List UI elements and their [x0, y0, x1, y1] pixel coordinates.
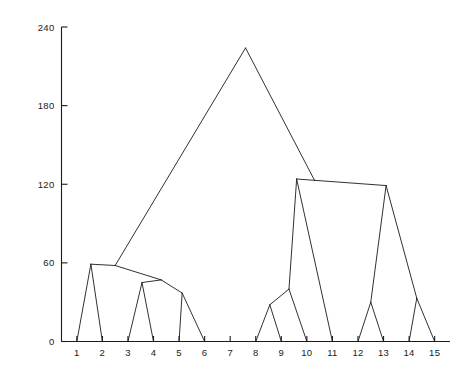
x-tick-label: 15	[429, 347, 440, 358]
dendrogram-links	[77, 48, 435, 342]
dendrogram-branch	[289, 289, 307, 341]
dendrogram-canvas: 060120180240 123456789101112131415	[0, 0, 464, 378]
dendrogram-branch	[371, 186, 386, 303]
dendrogram-chart: 060120180240 123456789101112131415	[0, 0, 464, 378]
y-tick-label: 180	[38, 100, 55, 111]
x-axis-group: 123456789101112131415	[62, 336, 451, 358]
dendrogram-branch	[142, 280, 161, 283]
y-tick-group	[62, 27, 68, 342]
x-tick-label: 7	[227, 347, 233, 358]
dendrogram-branch	[91, 264, 103, 341]
x-tick-label: 3	[125, 347, 131, 358]
x-tick-label: 12	[352, 347, 363, 358]
dendrogram-branch	[161, 280, 182, 293]
y-axis-group: 060120180240	[38, 22, 68, 348]
dendrogram-branch	[142, 283, 154, 342]
dendrogram-branch	[256, 305, 270, 342]
dendrogram-branch	[115, 265, 161, 279]
dendrogram-branch	[315, 180, 387, 185]
dendrogram-branch	[409, 298, 417, 341]
dendrogram-branch	[91, 264, 115, 265]
x-tick-label: 14	[404, 347, 415, 358]
y-tick-label-group: 060120180240	[38, 22, 55, 348]
dendrogram-branch	[115, 48, 245, 266]
dendrogram-branch	[270, 289, 289, 305]
y-tick-label: 120	[38, 179, 55, 190]
x-tick-label-group: 123456789101112131415	[74, 347, 440, 358]
y-tick-label: 240	[38, 22, 55, 33]
x-tick-label: 8	[253, 347, 259, 358]
y-tick-label: 0	[49, 336, 55, 347]
dendrogram-branch	[417, 298, 435, 341]
x-tick-label: 9	[279, 347, 285, 358]
dendrogram-branch	[371, 302, 384, 341]
x-tick-label: 6	[202, 347, 208, 358]
dendrogram-branch	[128, 283, 142, 342]
x-tick-label: 4	[151, 347, 157, 358]
dendrogram-branch	[358, 302, 371, 341]
x-tick-label: 11	[327, 347, 337, 358]
x-tick-label: 5	[176, 347, 182, 358]
dendrogram-branch	[289, 179, 297, 289]
y-tick-label: 60	[43, 257, 54, 268]
dendrogram-branch	[386, 186, 417, 299]
x-tick-label: 10	[301, 347, 312, 358]
dendrogram-branch	[246, 48, 315, 180]
x-tick-label: 13	[378, 347, 389, 358]
dendrogram-branch	[182, 293, 204, 341]
dendrogram-branch	[179, 293, 182, 341]
dendrogram-branch	[77, 264, 91, 341]
dendrogram-branch	[270, 305, 282, 342]
dendrogram-branch	[297, 179, 315, 180]
x-tick-label: 1	[74, 347, 80, 358]
x-tick-label: 2	[100, 347, 106, 358]
dendrogram-branch	[297, 179, 333, 341]
